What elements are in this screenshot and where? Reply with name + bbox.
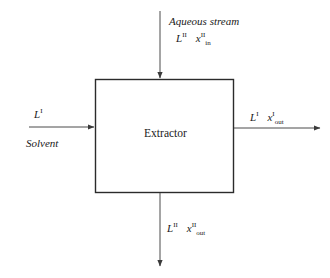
extract-composition-subscript: out xyxy=(275,118,284,126)
aqueous-composition-subscript: in xyxy=(205,39,210,47)
extract-flow-superscript: I xyxy=(256,110,258,118)
solvent-feed-variables: LI xyxy=(34,109,42,121)
solvent-feed-title: Solvent xyxy=(26,138,58,150)
raffinate-flow-superscript: II xyxy=(173,221,178,229)
aqueous-flow-superscript: II xyxy=(182,31,187,39)
aqueous-feed-title: Aqueous stream xyxy=(169,16,239,28)
solvent-flow-superscript: I xyxy=(40,107,42,115)
raffinate-outlet-variables: LIIxIIout xyxy=(167,223,205,235)
extract-outlet-variables: LIxIout xyxy=(250,112,284,124)
aqueous-feed-variables: LIIxIIin xyxy=(176,33,211,45)
extractor-flow-diagram: Extractor Aqueous stream LIIxIIin LI Sol… xyxy=(0,0,330,278)
raffinate-composition-subscript: out xyxy=(196,229,205,237)
extractor-unit-label: Extractor xyxy=(96,127,235,139)
